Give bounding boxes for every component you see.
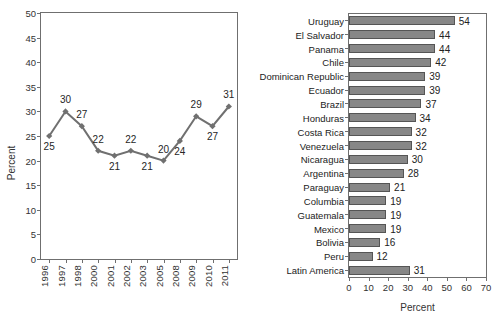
bar-category-label: Honduras: [303, 112, 344, 123]
bar-x-tick-mark: [408, 277, 409, 281]
y-tick-label: 20: [25, 155, 41, 166]
bar-row: Columbia19: [349, 196, 486, 205]
bar-row: Honduras34: [349, 113, 486, 122]
x-tick-mark: [66, 259, 67, 263]
bar-category-label: Mexico: [314, 223, 344, 234]
bar-x-tick-mark: [369, 277, 370, 281]
bar-y-tick-mark: [345, 103, 349, 104]
bar: [349, 196, 386, 205]
bar-row: Peru12: [349, 252, 486, 261]
x-tick-mark: [164, 259, 165, 263]
bar: [349, 127, 412, 136]
figure-container: Percent 05101520253035404550 19961997199…: [0, 0, 500, 325]
y-tick-label: 10: [25, 204, 41, 215]
bar-value-label: 12: [377, 251, 388, 262]
x-tick-mark: [98, 259, 99, 263]
bar-category-label: Costa Rica: [298, 126, 344, 137]
x-tick-mark: [147, 259, 148, 263]
bar-row: El Salvador44: [349, 30, 486, 39]
x-tick-label: 2000: [88, 265, 99, 287]
bar-y-tick-mark: [345, 242, 349, 243]
bar-y-tick-mark: [345, 131, 349, 132]
bar-value-label: 37: [425, 98, 436, 109]
x-tick-label: 2005: [153, 265, 164, 287]
bar-value-label: 34: [420, 112, 431, 123]
data-point-label: 21: [142, 161, 153, 172]
bar-row: Guatemala19: [349, 210, 486, 219]
bar-category-label: Nicaragua: [301, 154, 344, 165]
bar-category-label: Ecuador: [309, 85, 344, 96]
bar-value-label: 19: [390, 209, 401, 220]
data-point-label: 22: [125, 134, 136, 145]
bar-x-tick-mark: [349, 277, 350, 281]
bar: [349, 155, 408, 164]
x-tick-mark: [180, 259, 181, 263]
bar-category-label: Brazil: [320, 98, 344, 109]
bar: [349, 224, 386, 233]
y-tick-label: 25: [25, 131, 41, 142]
bar-category-label: Columbia: [304, 195, 344, 206]
bar-category-label: Chile: [322, 57, 344, 68]
bar: [349, 86, 425, 95]
bar-value-label: 32: [416, 140, 427, 151]
bar-x-tick-label: 10: [363, 282, 374, 293]
y-tick-label: 35: [25, 81, 41, 92]
bar-y-tick-mark: [345, 256, 349, 257]
bar-x-tick-label: 70: [481, 282, 492, 293]
bar-chart-plot-area: Uruguay54El Salvador44Panama44Chile42Dom…: [348, 13, 487, 278]
x-tick-mark: [131, 259, 132, 263]
bar-row: Nicaragua30: [349, 155, 486, 164]
x-tick-label: 2003: [137, 265, 148, 287]
bar-x-tick-mark: [466, 277, 467, 281]
x-tick-label: 2011: [218, 265, 229, 286]
bar: [349, 252, 373, 261]
bar-value-label: 16: [384, 237, 395, 248]
bar: [349, 44, 435, 53]
bar-row: Uruguay54: [349, 16, 486, 25]
x-tick-mark: [196, 259, 197, 263]
bar-row: Costa Rica32: [349, 127, 486, 136]
bar-y-tick-mark: [345, 48, 349, 49]
bar-category-label: Latin America: [286, 265, 344, 276]
bar-y-tick-mark: [345, 34, 349, 35]
bar-value-label: 39: [429, 85, 440, 96]
bar-value-label: 28: [408, 168, 419, 179]
bar-x-tick-label: 40: [422, 282, 433, 293]
data-point-label: 25: [44, 141, 55, 152]
bar-y-tick-mark: [345, 20, 349, 21]
bar-row: Panama44: [349, 44, 486, 53]
bar-value-label: 42: [435, 57, 446, 68]
bar-row: Argentina28: [349, 169, 486, 178]
bar-row: Ecuador39: [349, 86, 486, 95]
bar-x-tick-label: 50: [442, 282, 453, 293]
x-tick-label: 2002: [120, 265, 131, 287]
data-point-label: 24: [174, 146, 185, 157]
bar-value-label: 44: [439, 29, 450, 40]
bar-value-label: 30: [412, 154, 423, 165]
bar: [349, 169, 404, 178]
bar-value-label: 54: [459, 15, 470, 26]
bar-y-tick-mark: [345, 62, 349, 63]
bar-category-label: Argentina: [303, 168, 344, 179]
data-point-label: 27: [207, 131, 218, 142]
data-point-label: 22: [93, 134, 104, 145]
x-tick-mark: [49, 259, 50, 263]
bar-value-label: 32: [416, 126, 427, 137]
y-tick-label: 40: [25, 57, 41, 68]
bar-row: Bolivia16: [349, 238, 486, 247]
bar-chart-x-axis-title: Percent: [348, 302, 487, 313]
bar: [349, 210, 386, 219]
bar-y-tick-mark: [345, 117, 349, 118]
bar: [349, 58, 431, 67]
bar-value-label: 44: [439, 43, 450, 54]
line-chart-plot-area: 05101520253035404550 1996199719982000200…: [40, 12, 238, 260]
bar-value-label: 31: [414, 265, 425, 276]
bar: [349, 99, 421, 108]
data-point-label: 27: [76, 109, 87, 120]
bar-x-tick-label: 30: [402, 282, 413, 293]
bar-x-tick-mark: [447, 277, 448, 281]
x-tick-label: 2010: [202, 265, 213, 287]
x-tick-label: 2009: [186, 265, 197, 287]
bar-value-label: 19: [390, 223, 401, 234]
bar: [349, 72, 425, 81]
